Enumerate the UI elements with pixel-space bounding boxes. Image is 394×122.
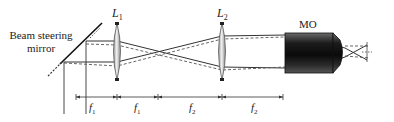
lens-l2-label-main: L [217, 6, 224, 20]
dimension-label-f2-a: f2 [189, 101, 196, 116]
lens-l2 [219, 22, 226, 81]
dimension-label-f1-a: f1 [89, 101, 96, 116]
dim-sub: 1 [137, 108, 141, 116]
focal-length-dimension-line [76, 94, 283, 100]
lens-l1-label-sub: 1 [119, 13, 123, 22]
dimension-label-f2-b: f2 [251, 101, 258, 116]
focal-point-marker [362, 42, 372, 62]
lens-l1 [114, 22, 121, 81]
lens-l2-label: L2 [217, 6, 228, 22]
dimension-label-f1-b: f1 [134, 101, 141, 116]
dim-sub: 2 [254, 108, 258, 116]
lens-l1-label-main: L [112, 6, 119, 20]
objective-label: MO [299, 18, 317, 30]
optical-diagram: Beam steering mirror L1 L2 MO f1 f1 f2 f… [0, 0, 394, 122]
lens-l2-label-sub: 2 [224, 13, 228, 22]
optics-svg [0, 0, 394, 122]
mirror-label-line2: mirror [0, 42, 82, 55]
mirror-label: Beam steering mirror [0, 29, 82, 55]
dim-sub: 1 [92, 108, 96, 116]
lens-l1-label: L1 [112, 6, 123, 22]
dim-sub: 2 [192, 108, 196, 116]
microscope-objective [285, 33, 343, 73]
mirror-label-line1: Beam steering [0, 29, 82, 42]
